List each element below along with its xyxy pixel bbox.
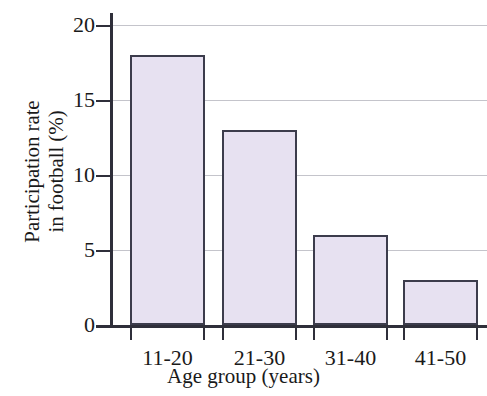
y-axis-line: [110, 13, 113, 326]
x-tick-2-right: [386, 326, 388, 340]
y-tick-label-10: 10: [35, 164, 95, 186]
y-tick-label-20: 20: [35, 14, 95, 36]
x-axis-title: Age group (years): [0, 366, 487, 387]
x-axis-line: [96, 325, 487, 328]
bar-2: [313, 235, 388, 325]
y-tick-label-0: 0: [35, 314, 95, 336]
y-tick-label-5: 5: [35, 239, 95, 261]
y-tick-5: [96, 250, 111, 252]
bar-chart: Participation rate in football (%) 20 15…: [0, 0, 487, 396]
y-tick-20: [96, 25, 111, 27]
bar-0: [130, 55, 205, 325]
x-tick-0-right: [203, 326, 205, 340]
x-tick-2-left: [313, 326, 315, 340]
x-tick-3-left: [403, 326, 405, 340]
plot-area: 20 15 10 5 0 11-20 21-30 31-40 41-50: [110, 25, 487, 325]
x-tick-0-left: [130, 326, 132, 340]
y-tick-label-15: 15: [35, 89, 95, 111]
bar-3: [403, 280, 478, 325]
bar-1: [222, 130, 297, 325]
y-tick-10: [96, 175, 111, 177]
x-tick-1-left: [222, 326, 224, 340]
x-tick-1-right: [295, 326, 297, 340]
gridline-20: [110, 25, 487, 26]
x-tick-3-right: [476, 326, 478, 340]
y-tick-15: [96, 100, 111, 102]
